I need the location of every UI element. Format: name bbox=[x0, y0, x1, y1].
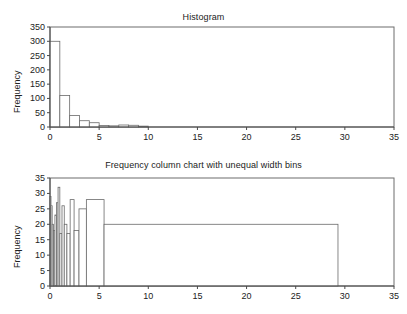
histogram-bar bbox=[70, 116, 80, 127]
y-tick-label: 35 bbox=[35, 173, 45, 183]
unequal-width-bar bbox=[86, 200, 104, 286]
x-tick-label: 15 bbox=[192, 132, 202, 142]
x-tick-label: 0 bbox=[47, 132, 52, 142]
histogram-bar bbox=[79, 121, 89, 127]
unequal-width-bar bbox=[74, 230, 79, 286]
y-tick-label: 0 bbox=[40, 122, 45, 132]
y-tick-label: 30 bbox=[35, 188, 45, 198]
histogram-plot: 05101520253035050100150200250300350 bbox=[0, 0, 407, 155]
x-tick-label: 35 bbox=[389, 132, 399, 142]
y-tick-label: 15 bbox=[35, 235, 45, 245]
unequal-width-bar bbox=[70, 200, 74, 286]
y-tick-label: 300 bbox=[30, 36, 45, 46]
y-tick-label: 0 bbox=[40, 281, 45, 291]
x-tick-label: 35 bbox=[389, 291, 399, 301]
chart-panel-histogram: Histogram Frequency 05101520253035050100… bbox=[0, 0, 407, 155]
x-tick-label: 15 bbox=[192, 291, 202, 301]
figure-page: Histogram Frequency 05101520253035050100… bbox=[0, 0, 407, 314]
unequal-width-bar bbox=[79, 209, 86, 286]
y-tick-label: 50 bbox=[35, 108, 45, 118]
y-tick-label: 20 bbox=[35, 219, 45, 229]
y-tick-label: 350 bbox=[30, 22, 45, 32]
x-tick-label: 30 bbox=[340, 132, 350, 142]
y-tick-label: 200 bbox=[30, 65, 45, 75]
x-tick-label: 20 bbox=[242, 132, 252, 142]
chart-panel-unequal-bins: Frequency column chart with unequal widt… bbox=[0, 155, 407, 314]
unequal-bins-plot: 0510152025303505101520253035 bbox=[0, 155, 407, 314]
y-tick-label: 100 bbox=[30, 93, 45, 103]
x-tick-label: 5 bbox=[97, 291, 102, 301]
histogram-bar bbox=[50, 41, 60, 127]
x-tick-label: 10 bbox=[143, 291, 153, 301]
x-tick-label: 0 bbox=[47, 291, 52, 301]
x-tick-label: 5 bbox=[97, 132, 102, 142]
x-tick-label: 20 bbox=[242, 291, 252, 301]
x-tick-label: 30 bbox=[340, 291, 350, 301]
unequal-width-bar bbox=[104, 224, 338, 286]
y-tick-label: 150 bbox=[30, 79, 45, 89]
y-tick-label: 5 bbox=[40, 266, 45, 276]
x-tick-label: 25 bbox=[291, 291, 301, 301]
histogram-bar bbox=[89, 123, 99, 127]
x-tick-label: 25 bbox=[291, 132, 301, 142]
y-tick-label: 10 bbox=[35, 250, 45, 260]
y-tick-label: 250 bbox=[30, 51, 45, 61]
y-tick-label: 25 bbox=[35, 204, 45, 214]
x-tick-label: 10 bbox=[143, 132, 153, 142]
histogram-bar bbox=[60, 96, 70, 127]
unequal-width-bar bbox=[67, 234, 70, 286]
